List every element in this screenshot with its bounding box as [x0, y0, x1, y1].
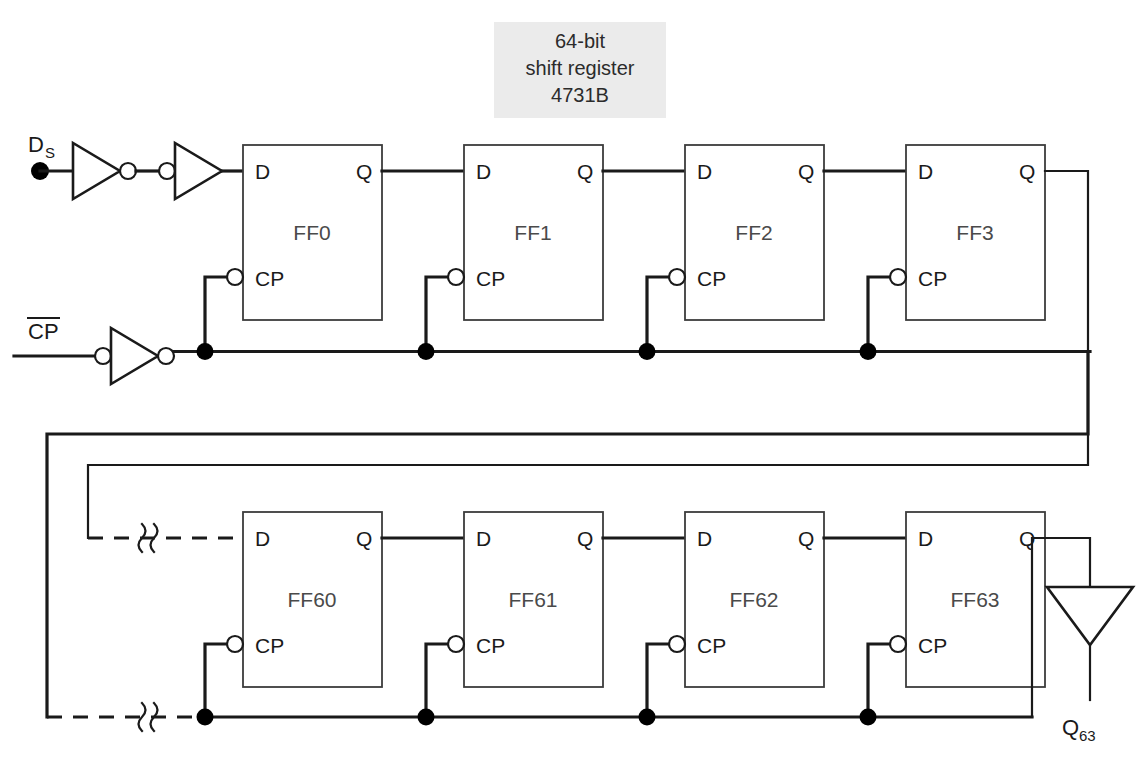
- data-output-subscript: 63: [1079, 727, 1096, 744]
- wire-ff63q-to-outbuf: [1045, 538, 1090, 587]
- ff1-pin-q: Q: [577, 160, 593, 183]
- ff2-pin-d: D: [697, 160, 712, 183]
- data-input-subscript: S: [45, 144, 55, 161]
- clock-input-label: CP: [28, 319, 59, 344]
- ff2-label: FF2: [735, 221, 772, 244]
- input-inverter-1: [73, 143, 159, 199]
- clock-junction-ff61: [418, 709, 435, 726]
- clock-buffer-triangle: [111, 328, 158, 384]
- clock-stub-ff63: [868, 644, 890, 717]
- clock-junction-ff63: [860, 709, 877, 726]
- ff0-pin-d: D: [255, 160, 270, 183]
- ff61-pin-q: Q: [577, 527, 593, 550]
- data-output-label: Q: [1062, 715, 1079, 740]
- ff1-pin-d: D: [476, 160, 491, 183]
- ff1-pin-cp: CP: [476, 267, 505, 290]
- title-line-3: 4731B: [551, 84, 609, 106]
- ff2-pin-q: Q: [798, 160, 814, 183]
- clock-junction-ff3: [860, 343, 877, 360]
- flipflop-ff60: D Q CP FF60: [227, 512, 464, 687]
- clock-buffer-input-bubble: [95, 348, 111, 364]
- ff2-pin-cp: CP: [697, 267, 726, 290]
- inverter-2-input-bubble: [159, 163, 175, 179]
- inverter-1-output-bubble: [120, 163, 136, 179]
- clock-stub-ff62: [647, 644, 669, 717]
- output-buffer-triangle: [1047, 587, 1133, 645]
- ff0-label: FF0: [293, 221, 330, 244]
- clock-stub-ff1: [426, 277, 448, 352]
- ff0-cp-bubble: [227, 269, 243, 285]
- clock-junction-ff62: [639, 709, 656, 726]
- clock-stub-ff61: [426, 644, 448, 717]
- ff2-cp-bubble: [669, 269, 685, 285]
- ff3-label: FF3: [956, 221, 993, 244]
- ff0-pin-q: Q: [356, 160, 372, 183]
- ff1-label: FF1: [514, 221, 551, 244]
- ff63-label: FF63: [950, 588, 999, 611]
- shift-register-schematic: 64-bit shift register 4731B D S CP: [0, 0, 1148, 769]
- flipflop-ff2: D Q CP FF2: [669, 145, 906, 320]
- ff60-pin-q: Q: [356, 527, 372, 550]
- input-inverter-2: [159, 143, 243, 199]
- title-line-2: shift register: [526, 57, 635, 79]
- ff61-pin-cp: CP: [476, 634, 505, 657]
- ff62-pin-cp: CP: [697, 634, 726, 657]
- ff0-pin-cp: CP: [255, 267, 284, 290]
- ff1-cp-bubble: [448, 269, 464, 285]
- flipflop-ff3: D Q CP FF3: [890, 145, 1045, 320]
- title-line-1: 64-bit: [555, 30, 605, 52]
- ff63-pin-cp: CP: [918, 634, 947, 657]
- ff62-pin-q: Q: [798, 527, 814, 550]
- flipflop-ff63: D Q CP FF63: [890, 512, 1045, 687]
- clock-input-port: CP: [14, 318, 174, 384]
- clock-junction-ff0: [197, 343, 214, 360]
- ff63-pin-d: D: [918, 527, 933, 550]
- flipflop-ff61: D Q CP FF61: [448, 512, 685, 687]
- ff61-label: FF61: [508, 588, 557, 611]
- ff62-label: FF62: [729, 588, 778, 611]
- clock-stub-ff60: [205, 644, 227, 717]
- ff62-pin-d: D: [697, 527, 712, 550]
- data-input-label: D: [28, 132, 44, 157]
- inverter-1-triangle: [73, 143, 120, 199]
- clock-junction-ff2: [639, 343, 656, 360]
- ff63-cp-bubble: [890, 636, 906, 652]
- clock-stub-ff3: [868, 277, 890, 352]
- clock-stub-ff0: [205, 277, 227, 352]
- flipflop-ff1: D Q CP FF1: [448, 145, 685, 320]
- flipflop-ff62: D Q CP FF62: [669, 512, 906, 687]
- ff62-cp-bubble: [669, 636, 685, 652]
- ff3-pin-d: D: [918, 160, 933, 183]
- ff61-cp-bubble: [448, 636, 464, 652]
- clock-junction-ff1: [418, 343, 435, 360]
- clock-stub-ff2: [647, 277, 669, 352]
- ff3-cp-bubble: [890, 269, 906, 285]
- clock-junction-ff60: [197, 709, 214, 726]
- data-input-port: D S: [28, 132, 73, 180]
- ff61-pin-d: D: [476, 527, 491, 550]
- ff3-pin-cp: CP: [918, 267, 947, 290]
- ff60-label: FF60: [287, 588, 336, 611]
- output-buffer-group: Q 63: [1045, 538, 1133, 744]
- clock-buffer-output-bubble: [158, 348, 174, 364]
- ff60-cp-bubble: [227, 636, 243, 652]
- ff60-pin-d: D: [255, 527, 270, 550]
- title-block: 64-bit shift register 4731B: [494, 22, 666, 118]
- circuit-diagram: 64-bit shift register 4731B D S CP: [0, 0, 1148, 769]
- inverter-2-triangle: [175, 143, 222, 199]
- ff3-pin-q: Q: [1019, 160, 1035, 183]
- flipflop-ff0: D Q CP FF0: [227, 145, 464, 320]
- ff60-pin-cp: CP: [255, 634, 284, 657]
